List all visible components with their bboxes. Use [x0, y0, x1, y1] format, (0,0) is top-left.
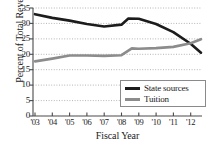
- legend-item-tuition: Tuition: [125, 94, 169, 105]
- legend-swatch-tuition: [125, 98, 140, 101]
- legend-item-state-sources: State sources: [125, 83, 189, 94]
- legend-label-tuition: Tuition: [144, 95, 169, 104]
- x-tick-label-12: '12: [180, 118, 202, 127]
- legend-swatch-state-sources: [125, 87, 140, 90]
- x-axis-title: Fiscal Year: [30, 130, 205, 141]
- chart-legend: State sources Tuition: [120, 80, 206, 107]
- series-line-tuition: [35, 39, 201, 61]
- legend-label-state-sources: State sources: [144, 84, 189, 93]
- revenue-line-chart: Percent of Total Revenue 35 30 25 20 15 …: [0, 0, 207, 148]
